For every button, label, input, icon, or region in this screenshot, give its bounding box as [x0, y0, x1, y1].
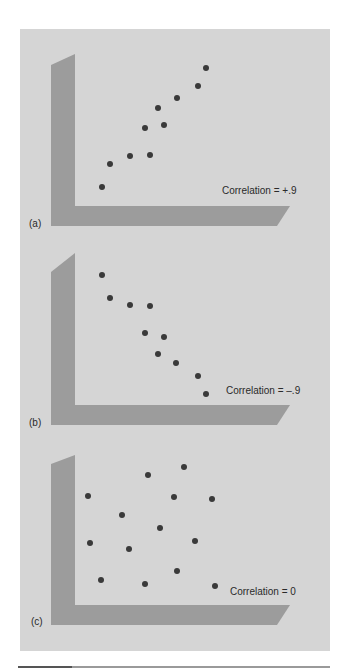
panel-a-correlation-label: Correlation = +.9	[222, 185, 297, 196]
data-point	[107, 161, 113, 167]
data-point	[145, 472, 151, 478]
panel-b-x-axis-bar	[51, 405, 290, 425]
data-point	[157, 525, 163, 531]
data-point	[155, 105, 161, 111]
data-point	[155, 351, 161, 357]
data-point	[161, 122, 167, 128]
data-point	[126, 546, 132, 552]
data-point	[127, 153, 133, 159]
data-point	[181, 464, 187, 470]
data-point	[142, 581, 148, 587]
data-point	[142, 125, 148, 131]
panel-b-label: (b)	[29, 417, 41, 428]
panel-b-y-axis-bar	[51, 253, 75, 405]
data-point	[212, 583, 218, 589]
data-point	[173, 360, 179, 366]
data-point	[203, 391, 209, 397]
data-point	[209, 496, 215, 502]
data-point	[195, 83, 201, 89]
data-point	[127, 302, 133, 308]
panel-c-y-axis-bar	[51, 455, 75, 605]
data-point	[147, 303, 153, 309]
data-point	[98, 577, 104, 583]
panel-b-points	[99, 272, 209, 397]
data-point	[203, 65, 209, 71]
data-point	[142, 330, 148, 336]
data-point	[174, 568, 180, 574]
panel-a: Correlation = +.9 (a)	[29, 54, 297, 229]
panel-a-label: (a)	[29, 218, 41, 229]
data-point	[171, 494, 177, 500]
correlation-scatter-figure: Correlation = +.9 (a) Correlation = –.9 …	[0, 0, 348, 668]
data-point	[119, 512, 125, 518]
data-point	[107, 295, 113, 301]
data-point	[99, 272, 105, 278]
data-point	[85, 493, 91, 499]
data-point	[147, 152, 153, 158]
panel-a-points	[99, 65, 209, 190]
data-point	[161, 334, 167, 340]
data-point	[192, 538, 198, 544]
data-point	[99, 184, 105, 190]
panel-c: Correlation = 0 (c)	[31, 455, 296, 627]
panel-b-correlation-label: Correlation = –.9	[226, 385, 301, 396]
data-point	[87, 540, 93, 546]
panel-a-y-axis-bar	[51, 54, 75, 206]
data-point	[174, 95, 180, 101]
panel-b: Correlation = –.9 (b)	[29, 253, 301, 428]
panel-c-label: (c)	[31, 616, 43, 627]
panel-c-points	[85, 464, 218, 589]
data-point	[195, 373, 201, 379]
panel-c-correlation-label: Correlation = 0	[230, 586, 296, 597]
panel-c-x-axis-bar	[51, 605, 290, 625]
panel-a-x-axis-bar	[51, 206, 290, 226]
